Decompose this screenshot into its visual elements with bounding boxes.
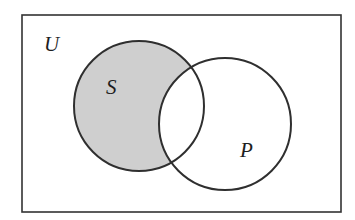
universe-label: U bbox=[44, 32, 61, 56]
set-p-circle bbox=[159, 58, 291, 190]
universe-rectangle bbox=[22, 15, 341, 212]
set-p-label: P bbox=[239, 138, 253, 162]
set-s-label: S bbox=[106, 75, 117, 99]
venn-diagram: U S P bbox=[0, 0, 355, 220]
